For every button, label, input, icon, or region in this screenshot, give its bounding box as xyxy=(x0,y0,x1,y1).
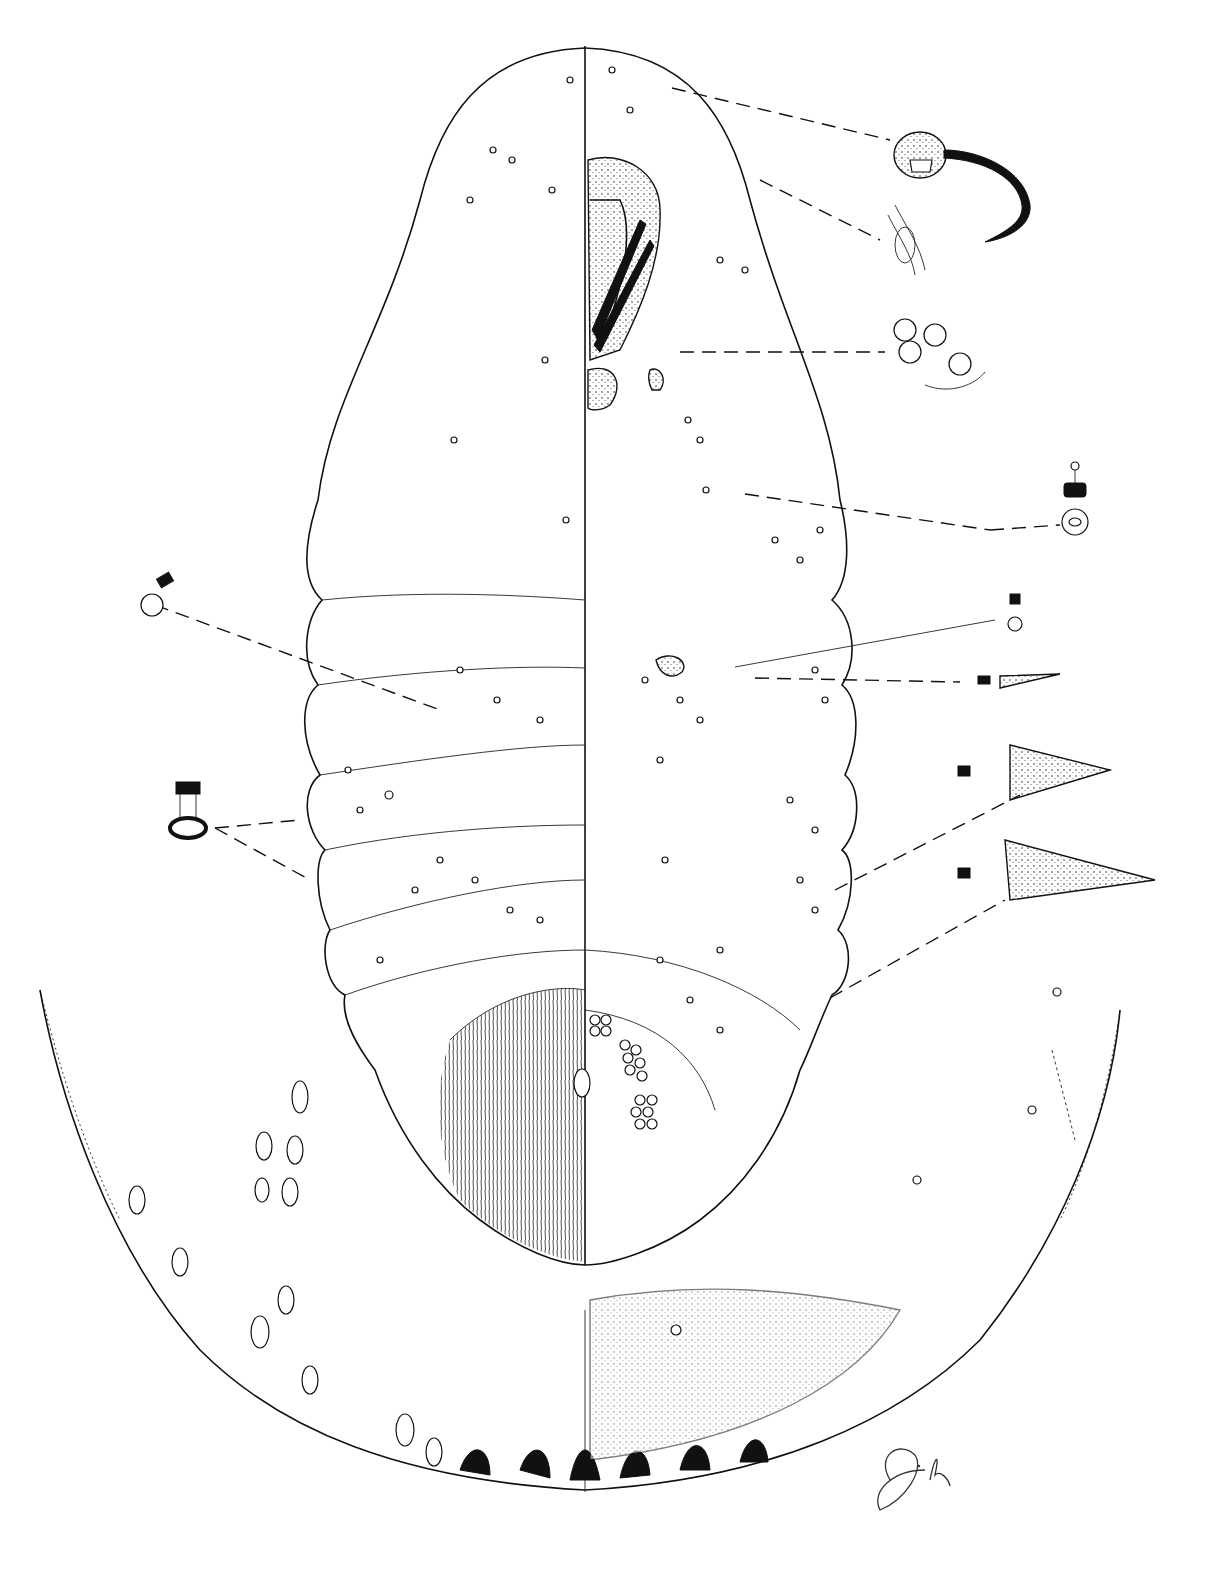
inset-pores xyxy=(680,319,985,389)
inset-left-duct xyxy=(141,572,440,710)
setae-and-pores xyxy=(345,67,828,1129)
inset-setae xyxy=(755,674,1155,998)
inset-small-duct xyxy=(735,594,1022,667)
insect-illustration xyxy=(0,0,1214,1595)
artist-signature xyxy=(878,1449,950,1510)
inset-duct-right xyxy=(745,462,1088,535)
spiracles xyxy=(649,369,684,676)
inset-eye xyxy=(760,180,925,275)
inset-left-collar xyxy=(170,782,310,880)
inset-spiracle xyxy=(672,88,1030,242)
anal-region xyxy=(439,988,590,1262)
